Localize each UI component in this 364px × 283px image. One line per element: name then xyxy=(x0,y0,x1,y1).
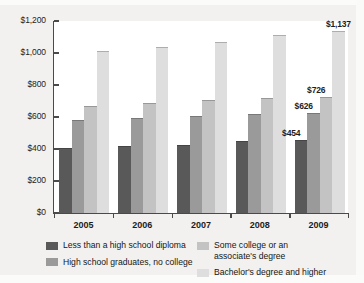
x-axis-tick xyxy=(54,213,55,218)
y-tick-label: $200 xyxy=(27,175,46,185)
bar-top-edge xyxy=(97,51,110,52)
bar-top-edge xyxy=(248,114,261,115)
y-tick-label: $1,200 xyxy=(21,15,46,25)
x-axis-label-2006: 2006 xyxy=(132,220,152,230)
legend-swatch xyxy=(46,242,58,250)
bar: $626 xyxy=(307,113,320,213)
bar xyxy=(248,114,261,213)
bar-value-label: $626 xyxy=(295,101,313,111)
legend-label: Bachelor's degree and higher xyxy=(214,267,326,278)
bar xyxy=(131,118,144,213)
plot-area: $0$200$400$600$800$1,000$1,200 $454$626$… xyxy=(53,21,348,214)
bar xyxy=(236,141,249,213)
y-tick-mark xyxy=(54,52,59,53)
bar-top-edge xyxy=(215,42,228,43)
bar xyxy=(97,51,110,213)
x-axis-label-2005: 2005 xyxy=(73,220,93,230)
bar: $454 xyxy=(295,140,308,213)
bar xyxy=(72,120,85,213)
bar-group-2006 xyxy=(118,21,170,213)
y-tick-mark xyxy=(54,180,59,181)
bar-top-edge xyxy=(307,113,320,114)
y-tick-label: $400 xyxy=(27,143,46,153)
bar xyxy=(177,145,190,213)
bar xyxy=(143,103,156,213)
bar-top-edge xyxy=(236,141,249,142)
legend-column-left: Less than a high school diplomaHigh scho… xyxy=(46,240,197,283)
bar-top-edge xyxy=(273,35,286,36)
bar xyxy=(118,146,131,213)
y-tick-mark xyxy=(54,20,59,21)
bar-group-2008 xyxy=(236,21,288,213)
legend-swatch xyxy=(46,258,58,266)
x-axis-tick xyxy=(289,213,290,218)
x-axis-tick xyxy=(348,213,349,218)
bar-top-edge xyxy=(295,140,308,141)
bar-top-edge xyxy=(84,106,97,107)
bar-group-2007 xyxy=(177,21,229,213)
bar-top-edge xyxy=(143,103,156,104)
y-tick-label: $600 xyxy=(27,111,46,121)
bar-top-edge xyxy=(320,97,333,98)
x-axis-tick xyxy=(172,213,173,218)
legend-item: Some college or an associate's degree xyxy=(197,240,346,261)
legend-swatch xyxy=(197,242,209,250)
bar-top-edge xyxy=(177,145,190,146)
bar xyxy=(202,100,215,213)
bar: $1,137 xyxy=(332,31,345,213)
x-axis-label-2008: 2008 xyxy=(250,220,270,230)
y-tick-label: $0 xyxy=(37,207,46,217)
bar xyxy=(261,98,274,213)
bar xyxy=(156,47,169,213)
legend-swatch xyxy=(197,269,209,277)
bar xyxy=(84,106,97,213)
legend-label: High school graduates, no college xyxy=(63,257,192,268)
bar-top-edge xyxy=(202,100,215,101)
bar-top-edge xyxy=(72,120,85,121)
chart-legend: Less than a high school diplomaHigh scho… xyxy=(46,240,346,283)
bar xyxy=(190,116,203,213)
bar xyxy=(215,42,228,213)
bar-top-edge xyxy=(332,31,345,32)
legend-item: Bachelor's degree and higher xyxy=(197,267,346,278)
bar-top-edge xyxy=(59,148,72,149)
bar-top-edge xyxy=(131,118,144,119)
bar-value-label: $1,137 xyxy=(326,19,351,29)
x-axis-label-2007: 2007 xyxy=(191,220,211,230)
y-tick-label: $800 xyxy=(27,79,46,89)
bar-top-edge xyxy=(118,146,131,147)
bar xyxy=(273,35,286,213)
legend-item: High school graduates, no college xyxy=(46,257,197,268)
figure-top-edge xyxy=(0,0,364,5)
legend-column-right: Some college or an associate's degreeBac… xyxy=(197,240,346,283)
y-tick-mark xyxy=(54,116,59,117)
bar-group-2009: $454$626$726$1,137 xyxy=(295,21,347,213)
legend-item: Less than a high school diploma xyxy=(46,240,197,251)
y-tick-mark xyxy=(54,148,59,149)
x-axis-label-2009: 2009 xyxy=(309,220,329,230)
bar-top-edge xyxy=(261,98,274,99)
bar-value-label: $454 xyxy=(282,128,300,138)
y-tick-label: $1,000 xyxy=(21,47,46,57)
y-tick-mark xyxy=(54,84,59,85)
bar-top-edge xyxy=(156,47,169,48)
bar-group-2005 xyxy=(59,21,111,213)
x-axis-tick xyxy=(230,213,231,218)
x-axis-tick xyxy=(113,213,114,218)
bar-top-edge xyxy=(190,116,203,117)
legend-label: Less than a high school diploma xyxy=(63,240,186,251)
legend-label: Some college or an associate's degree xyxy=(214,240,288,261)
figure-right-edge xyxy=(356,0,364,283)
bar-chart-figure: $0$200$400$600$800$1,000$1,200 $454$626$… xyxy=(0,0,364,283)
bar-value-label: $726 xyxy=(307,85,325,95)
bar: $726 xyxy=(320,97,333,213)
bar xyxy=(59,148,72,213)
